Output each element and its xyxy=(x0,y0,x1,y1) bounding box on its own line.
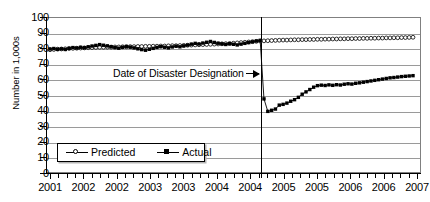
x-minor-tick-mark xyxy=(67,174,68,178)
open-circle-marker-icon xyxy=(66,148,88,157)
x-minor-tick-mark xyxy=(334,174,335,178)
x-minor-tick-mark xyxy=(375,174,376,178)
x-minor-tick-mark xyxy=(342,174,343,178)
x-minor-tick-mark xyxy=(167,174,168,178)
x-minor-tick-mark xyxy=(58,174,59,178)
x-minor-tick-mark xyxy=(242,174,243,178)
gridline xyxy=(47,96,420,97)
x-minor-tick-mark xyxy=(133,174,134,178)
x-tick-mark xyxy=(317,174,318,179)
x-minor-tick-mark xyxy=(392,174,393,178)
x-minor-tick-mark xyxy=(158,174,159,178)
x-tick-mark xyxy=(384,174,385,179)
disaster-designation-line xyxy=(261,17,262,178)
chart-legend: Predicted Actual xyxy=(57,143,205,162)
x-minor-tick-mark xyxy=(175,174,176,178)
x-minor-tick-mark xyxy=(125,174,126,178)
x-minor-tick-mark xyxy=(325,174,326,178)
x-tick-mark xyxy=(117,174,118,179)
x-minor-tick-mark xyxy=(359,174,360,178)
legend-entry-actual: Actual xyxy=(157,147,211,158)
x-minor-tick-mark xyxy=(208,174,209,178)
x-minor-tick-mark xyxy=(292,174,293,178)
gridline xyxy=(47,112,420,113)
x-tick-mark xyxy=(350,174,351,179)
x-minor-tick-mark xyxy=(92,174,93,178)
gridline xyxy=(47,65,420,66)
x-minor-tick-mark xyxy=(300,174,301,178)
x-minor-tick-mark xyxy=(400,174,401,178)
legend-label-actual: Actual xyxy=(182,147,211,158)
x-minor-tick-mark xyxy=(75,174,76,178)
x-tick-label: 2007 xyxy=(397,181,430,193)
x-tick-mark xyxy=(50,174,51,179)
annotation-label: Date of Disaster Designation xyxy=(113,67,244,79)
x-minor-tick-mark xyxy=(225,174,226,178)
x-minor-tick-mark xyxy=(275,174,276,178)
x-minor-tick-mark xyxy=(367,174,368,178)
disaster-designation-chart: Number in 1,000s 0102030405060708090100 … xyxy=(0,0,430,202)
y-axis-line xyxy=(46,17,47,174)
x-tick-mark xyxy=(150,174,151,179)
x-tick-mark xyxy=(250,174,251,179)
x-tick-mark xyxy=(217,174,218,179)
x-minor-tick-mark xyxy=(108,174,109,178)
filled-square-marker-icon xyxy=(157,148,179,157)
x-minor-tick-mark xyxy=(259,174,260,178)
x-minor-tick-mark xyxy=(192,174,193,178)
x-minor-tick-mark xyxy=(267,174,268,178)
x-tick-mark xyxy=(183,174,184,179)
legend-label-predicted: Predicted xyxy=(91,147,135,158)
x-tick-mark xyxy=(83,174,84,179)
legend-entry-predicted: Predicted xyxy=(66,147,135,158)
x-tick-mark xyxy=(417,174,418,179)
x-minor-tick-mark xyxy=(409,174,410,178)
x-minor-tick-mark xyxy=(142,174,143,178)
x-minor-tick-mark xyxy=(100,174,101,178)
x-minor-tick-mark xyxy=(309,174,310,178)
x-minor-tick-mark xyxy=(234,174,235,178)
gridline xyxy=(47,127,420,128)
gridline xyxy=(47,34,420,35)
x-minor-tick-mark xyxy=(200,174,201,178)
gridline xyxy=(47,49,420,50)
annotation-arrow-icon xyxy=(246,73,259,74)
x-tick-mark xyxy=(284,174,285,179)
gridline xyxy=(47,80,420,81)
